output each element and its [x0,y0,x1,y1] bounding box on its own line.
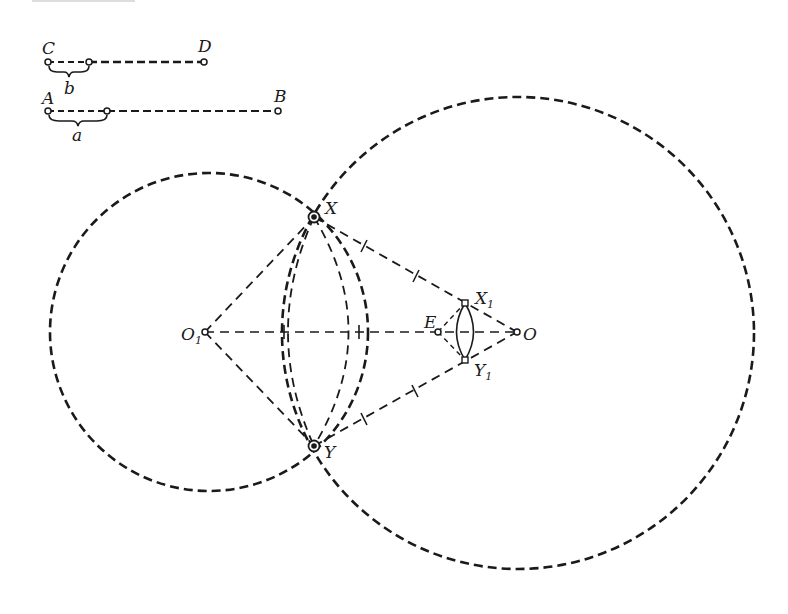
label-o: O [523,324,537,344]
point-o [514,329,520,335]
label-a: A [40,88,54,108]
tick-marks [284,240,419,425]
label-o1: O1 [181,324,202,347]
point-b [275,108,281,114]
point-d [201,59,207,65]
point-cd-mark [86,59,92,65]
line-e-y1 [438,332,465,360]
label-x: X [323,198,338,218]
point-o1 [202,329,208,335]
point-a [45,108,51,114]
label-y1: Y1 [474,360,492,383]
line-y-o [314,332,517,446]
point-y [309,441,320,452]
point-x1 [462,300,468,306]
construction-diagram: C D b A B a O1 O X Y X1 Y1 E [0,0,788,614]
label-e: E [423,312,437,332]
line-e-x1 [438,303,465,332]
segment-cd [45,59,207,77]
label-x1: X1 [473,288,494,311]
label-b-point: B [273,86,287,106]
label-y: Y [324,442,337,462]
brace-b [49,66,89,77]
point-y1 [462,357,468,363]
line-x-o [314,217,517,332]
label-c: C [42,38,55,58]
point-x [309,212,320,223]
label-b: b [64,78,75,98]
line-o1-y [205,332,314,446]
point-ab-mark [104,108,110,114]
point-c [45,59,51,65]
segment-ab [45,108,281,126]
line-o1-x [205,217,314,332]
label-a-part: a [72,125,82,145]
label-d: D [197,36,212,56]
